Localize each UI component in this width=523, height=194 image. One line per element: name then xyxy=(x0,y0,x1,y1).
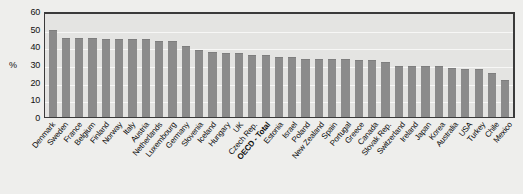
plot-area xyxy=(44,12,515,118)
bar xyxy=(208,52,216,117)
bar xyxy=(115,39,123,117)
bar xyxy=(248,55,256,117)
bar-series xyxy=(45,14,513,117)
bar-slot xyxy=(312,14,325,117)
bar-slot xyxy=(392,14,405,117)
bar-slot xyxy=(499,14,512,117)
bar xyxy=(315,59,323,117)
bar xyxy=(435,66,443,117)
bar xyxy=(501,80,509,117)
bar xyxy=(195,50,203,117)
bar-slot xyxy=(459,14,472,117)
bar xyxy=(475,69,483,117)
bar-slot xyxy=(259,14,272,117)
bar-slot xyxy=(166,14,179,117)
bar xyxy=(288,57,296,117)
bar-slot xyxy=(126,14,139,117)
y-axis-tick-label: 40 xyxy=(30,43,40,52)
bar xyxy=(88,38,96,118)
bar-chart: % 0102030405060 DenmarkSwedenFranceBelgi… xyxy=(0,0,523,194)
y-axis-tick-label: 10 xyxy=(30,96,40,105)
bar xyxy=(102,39,110,117)
bar-slot xyxy=(219,14,232,117)
bar xyxy=(488,73,496,117)
bar-slot xyxy=(206,14,219,117)
bar xyxy=(448,68,456,117)
x-axis-label-slot: Mexico xyxy=(501,119,514,194)
bar xyxy=(368,60,376,117)
bar xyxy=(421,66,429,117)
bar xyxy=(328,59,336,117)
bar xyxy=(168,41,176,117)
bar xyxy=(75,38,83,118)
bar-slot xyxy=(232,14,245,117)
x-axis-labels: DenmarkSwedenFranceBelgiumFinlandNorwayI… xyxy=(44,119,515,194)
bar xyxy=(49,30,57,117)
bar-slot xyxy=(299,14,312,117)
bar-slot xyxy=(379,14,392,117)
bar-slot xyxy=(419,14,432,117)
y-axis-tick-label: 60 xyxy=(30,8,40,17)
y-axis-tick-label: 0 xyxy=(35,114,40,123)
y-axis: % 0102030405060 xyxy=(0,0,44,130)
bar xyxy=(155,41,163,117)
bar xyxy=(182,46,190,117)
bar-slot xyxy=(286,14,299,117)
y-axis-tick-label: 30 xyxy=(30,61,40,70)
bar xyxy=(62,38,70,118)
bar-slot xyxy=(472,14,485,117)
bar-slot xyxy=(366,14,379,117)
bar xyxy=(461,69,469,117)
bar-slot xyxy=(139,14,152,117)
bar-slot xyxy=(246,14,259,117)
bar xyxy=(235,53,243,117)
bar xyxy=(262,55,270,117)
bar xyxy=(395,66,403,117)
bar-slot xyxy=(272,14,285,117)
bar-slot xyxy=(326,14,339,117)
bar xyxy=(128,39,136,117)
bar-slot xyxy=(432,14,445,117)
bar xyxy=(341,59,349,117)
y-axis-tick-label: 20 xyxy=(30,79,40,88)
bar-slot xyxy=(352,14,365,117)
bar xyxy=(355,60,363,117)
bar-slot xyxy=(73,14,86,117)
bar xyxy=(381,62,389,117)
bar-slot xyxy=(99,14,112,117)
bar xyxy=(142,39,150,117)
bar-slot xyxy=(192,14,205,117)
x-axis-label-slot: Hungary xyxy=(219,119,232,194)
bar xyxy=(222,53,230,117)
bar-slot xyxy=(113,14,126,117)
bar-slot xyxy=(179,14,192,117)
bar-slot xyxy=(405,14,418,117)
bar-slot xyxy=(46,14,59,117)
bar-slot xyxy=(485,14,498,117)
y-axis-tick-label: 50 xyxy=(30,26,40,35)
bar-slot xyxy=(86,14,99,117)
bar-slot xyxy=(59,14,72,117)
bar xyxy=(408,66,416,117)
bar xyxy=(301,59,309,117)
bar xyxy=(275,57,283,117)
bar-slot xyxy=(339,14,352,117)
bar-slot xyxy=(445,14,458,117)
bar-slot xyxy=(153,14,166,117)
y-axis-unit-label: % xyxy=(9,61,17,70)
